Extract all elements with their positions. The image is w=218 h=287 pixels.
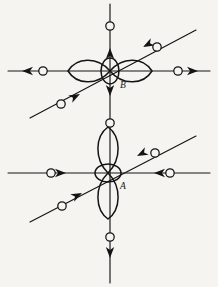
figure-background bbox=[0, 0, 218, 287]
particle-B-diagonal-upper-right bbox=[153, 43, 161, 51]
particle-B-top bbox=[106, 22, 114, 30]
particle-between-A-B bbox=[106, 119, 114, 127]
particle-A-right bbox=[166, 169, 174, 177]
orbital-diagram-canvas: BA bbox=[0, 0, 218, 287]
center-label-B: B bbox=[120, 80, 126, 90]
orbital-diagram-figure: BA bbox=[0, 0, 218, 287]
center-label-A: A bbox=[119, 181, 126, 191]
particle-B-diagonal-lower-left bbox=[57, 100, 65, 108]
particle-A-left bbox=[47, 169, 55, 177]
particle-B-left bbox=[39, 67, 47, 75]
particle-A-bottom bbox=[106, 233, 114, 241]
particle-B-right bbox=[174, 67, 182, 75]
particle-A-diagonal-lower-left bbox=[58, 202, 66, 210]
particle-A-diagonal-upper-right bbox=[151, 149, 159, 157]
